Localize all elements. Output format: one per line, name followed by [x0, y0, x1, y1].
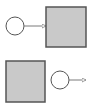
top-square-node [46, 7, 86, 47]
bottom-panel [6, 61, 86, 102]
bottom-circle-node [51, 71, 69, 89]
diagram-canvas [0, 0, 94, 109]
diagram-svg [0, 0, 94, 109]
bottom-square-node [6, 61, 45, 102]
top-circle-node [6, 17, 24, 35]
top-panel [6, 7, 86, 47]
